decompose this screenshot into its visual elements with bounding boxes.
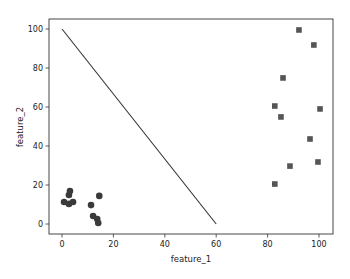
y-tick-label: 0 (38, 220, 43, 229)
y-tick-label: 100 (28, 25, 43, 34)
circle-marker (96, 193, 103, 200)
scatter-chart: 020406080100020406080100 feature_1 featu… (0, 0, 350, 279)
square-marker (280, 75, 286, 81)
x-tick-label: 40 (160, 240, 170, 249)
x-tick-label: 100 (311, 240, 326, 249)
decision-line (62, 29, 216, 224)
x-tick-label: 60 (211, 240, 221, 249)
y-axis-label: feature_2 (15, 107, 25, 147)
y-tick-label: 40 (33, 142, 43, 151)
circle-marker (95, 220, 102, 227)
square-marker (311, 42, 317, 48)
axes: 020406080100020406080100 (28, 19, 333, 249)
circle-marker (67, 188, 74, 195)
plot-area (61, 27, 323, 226)
square-marker (307, 136, 313, 142)
square-marker (317, 106, 323, 112)
circle-marker (70, 199, 77, 206)
y-tick-label: 80 (33, 64, 43, 73)
square-marker (272, 181, 278, 187)
x-axis-label: feature_1 (171, 254, 211, 264)
x-tick-label: 0 (59, 240, 64, 249)
square-marker (287, 163, 293, 169)
x-tick-label: 20 (108, 240, 118, 249)
square-marker (278, 114, 284, 120)
square-marker (272, 103, 278, 109)
x-tick-label: 80 (263, 240, 273, 249)
square-marker (315, 159, 321, 165)
axes-frame (49, 19, 333, 234)
square-marker (296, 27, 302, 33)
y-tick-label: 60 (33, 103, 43, 112)
y-tick-label: 20 (33, 181, 43, 190)
circle-marker (88, 202, 95, 209)
